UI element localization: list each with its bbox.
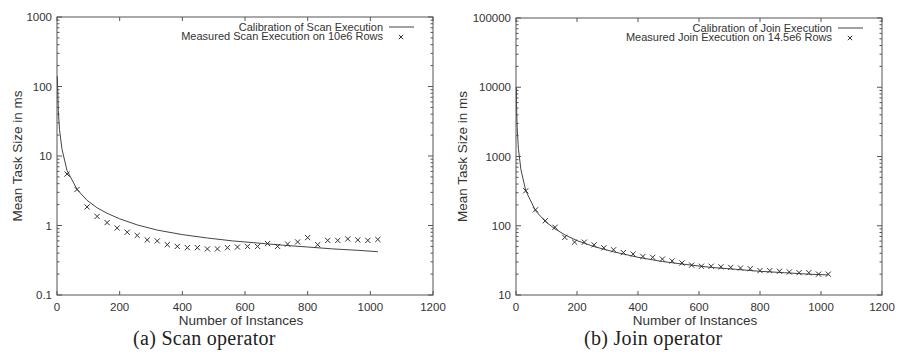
x-tick-label: 600: [235, 301, 254, 313]
measured-point-marker: [165, 242, 170, 247]
measured-point-marker: [572, 240, 577, 245]
measured-point-marker: [375, 237, 380, 242]
plot-frame: [57, 17, 433, 295]
measured-point-marker: [84, 204, 89, 209]
x-tick-label: 200: [567, 301, 586, 313]
y-tick-label: 1000: [485, 151, 511, 163]
y-tick-label: 100: [33, 81, 52, 93]
x-tick-label: 800: [750, 301, 769, 313]
measured-point-marker: [718, 264, 723, 269]
measured-point-marker: [155, 238, 160, 243]
figure-caption-scan: (a) Scan operator: [133, 327, 276, 350]
measured-point-marker: [777, 269, 782, 274]
x-tick-label: 1200: [420, 301, 446, 313]
measured-point-marker: [679, 260, 684, 265]
measured-point-marker: [215, 246, 220, 251]
y-tick-label: 10000: [479, 81, 511, 93]
x-tick-label: 600: [689, 301, 708, 313]
y-tick-label: 10: [498, 289, 511, 301]
x-tick-label: 1200: [869, 301, 895, 313]
y-tick-label: 100: [492, 220, 511, 232]
measured-point-marker: [205, 246, 210, 251]
y-tick-label: 1000: [26, 11, 52, 23]
measured-point-marker: [115, 225, 120, 230]
measured-point-marker: [345, 236, 350, 241]
measured-point-marker: [225, 245, 230, 250]
chart-panel-join: 0200400600800100012001010010001000010000…: [450, 0, 907, 363]
measured-point-marker: [305, 235, 310, 240]
measured-point-marker: [185, 245, 190, 250]
y-tick-label: 0.1: [36, 289, 52, 301]
measured-point-marker: [660, 256, 665, 261]
x-axis-title: Number of Instances: [179, 313, 304, 328]
measured-point-marker: [355, 237, 360, 242]
x-tick-label: 0: [513, 301, 519, 313]
y-tick-label: 100000: [473, 12, 511, 24]
measured-point-marker: [105, 220, 110, 225]
legend-label: Measured Scan Execution on 10e6 Rows: [181, 30, 383, 42]
measured-point-marker: [315, 242, 320, 247]
measured-point-marker: [365, 238, 370, 243]
x-tick-label: 400: [173, 301, 192, 313]
x-tick-label: 400: [628, 301, 647, 313]
measured-point-marker: [145, 237, 150, 242]
measured-point-marker: [74, 187, 79, 192]
legend-label: Measured Join Execution on 14.5e6 Rows: [626, 31, 833, 43]
measured-point-marker: [650, 255, 655, 260]
measured-point-marker: [245, 244, 250, 249]
x-tick-label: 0: [54, 301, 60, 313]
x-tick-label: 200: [110, 301, 129, 313]
measured-point-marker: [767, 268, 772, 273]
measured-point-marker: [95, 214, 100, 219]
measured-point-marker: [135, 233, 140, 238]
x-tick-label: 1000: [808, 301, 834, 313]
calibration-curve: [516, 87, 828, 275]
measured-point-marker: [826, 272, 831, 277]
x-tick-label: 800: [298, 301, 317, 313]
measured-point-marker: [175, 244, 180, 249]
measured-point-marker: [325, 238, 330, 243]
measured-point-marker: [796, 270, 801, 275]
y-tick-label: 1: [46, 220, 52, 232]
x-axis-title: Number of Instances: [633, 313, 758, 328]
y-tick-label: 10: [39, 150, 52, 162]
measured-point-marker: [335, 238, 340, 243]
measured-point-marker: [255, 244, 260, 249]
measured-point-marker: [757, 268, 762, 273]
figure-caption-join: (b) Join operator: [584, 327, 722, 350]
measured-point-marker: [295, 239, 300, 244]
measured-point-marker: [533, 207, 538, 212]
measured-point-marker: [709, 264, 714, 269]
measured-point-marker: [195, 245, 200, 250]
y-axis-title: Mean Task Size in ms: [10, 90, 25, 221]
scan-chart-plot: 0200400600800100012000.11101001000Number…: [0, 0, 450, 330]
chart-panel-scan: 0200400600800100012000.11101001000Number…: [0, 0, 450, 363]
measured-point-marker: [125, 230, 130, 235]
measured-point-marker: [235, 244, 240, 249]
measured-point-marker: [543, 218, 548, 223]
measured-point-marker: [787, 269, 792, 274]
y-axis-title: Mean Task Size in ms: [455, 91, 470, 222]
plot-frame: [516, 18, 882, 295]
measured-point-marker: [562, 235, 567, 240]
join-chart-plot: 0200400600800100012001010010001000010000…: [450, 0, 907, 330]
x-tick-label: 1000: [358, 301, 384, 313]
calibration-curve: [57, 76, 378, 251]
